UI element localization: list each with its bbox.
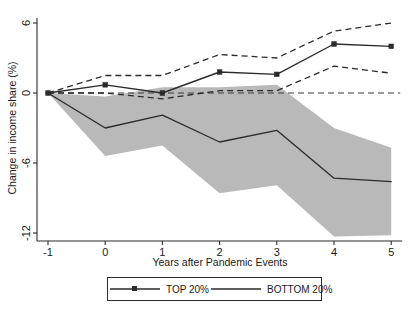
y-tick-label: -6 — [20, 158, 32, 168]
x-tick-label: 5 — [388, 246, 394, 258]
chart-figure: 60-6-12 -1012345 Change in income share … — [0, 0, 411, 310]
y-tick-label: 6 — [20, 20, 32, 26]
x-axis-ticks — [48, 241, 391, 245]
y-axis-ticks — [33, 23, 37, 233]
legend-entry-bottom-20: BOTTOM 20% — [209, 283, 332, 295]
legend-label-bottom-20: BOTTOM 20% — [267, 284, 332, 295]
x-tick-label: 4 — [331, 246, 337, 258]
y-tick-label: 0 — [20, 90, 32, 96]
top-20-data-point — [217, 70, 222, 75]
legend-swatch-bottom-20 — [209, 283, 263, 295]
top-20-ci-upper-line — [48, 23, 391, 93]
top-20-data-point — [160, 91, 165, 96]
top-20-data-point — [275, 72, 280, 77]
top-20-data-point — [46, 91, 51, 96]
legend-swatch-top-20 — [108, 283, 162, 295]
chart-plot-area: 60-6-12 -1012345 Change in income share … — [0, 0, 411, 310]
y-axis-title: Change in income share (%) — [6, 61, 18, 194]
top-20-data-point — [103, 83, 108, 88]
chart-legend: TOP 20% BOTTOM 20% — [107, 277, 322, 301]
x-axis-title: Years after Pandemic Events — [152, 256, 287, 268]
x-tick-label: 0 — [102, 246, 108, 258]
legend-label-top-20: TOP 20% — [166, 284, 209, 295]
y-axis-tick-labels: 60-6-12 — [20, 20, 32, 241]
top-20-data-point — [389, 44, 394, 49]
top-20-series-line — [48, 44, 391, 93]
y-tick-label: -12 — [20, 225, 32, 241]
legend-entry-top-20: TOP 20% — [108, 283, 209, 295]
bottom-20-confidence-band — [48, 85, 391, 237]
top-20-data-point — [332, 42, 337, 47]
x-tick-label: -1 — [43, 246, 53, 258]
